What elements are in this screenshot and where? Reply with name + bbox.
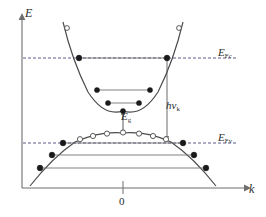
valence-electron-dot xyxy=(203,165,209,171)
axes-group xyxy=(19,13,251,194)
conduction-band-curve xyxy=(63,22,183,112)
conduction-electron-dot xyxy=(147,87,152,92)
conduction-empty-state-dot xyxy=(177,26,182,31)
valence-hole-dots-group xyxy=(77,130,168,142)
conduction-electron-dots-group xyxy=(76,55,170,114)
fermi-conduction-label: EFc xyxy=(218,47,232,58)
valence-hole-dot xyxy=(77,137,82,142)
conduction-electron-dot-fermi-left xyxy=(76,55,82,61)
valence-band-group xyxy=(30,133,216,186)
band-gap-subscript: g xyxy=(128,116,132,123)
valence-electron-dot xyxy=(60,140,66,146)
fermi-conduction-subscript: Fc xyxy=(225,52,232,59)
band-diagram-canvas xyxy=(0,0,266,217)
x-axis-label: k xyxy=(249,183,254,195)
valence-band-curve xyxy=(30,133,216,186)
conduction-electron-dot xyxy=(105,100,110,105)
conduction-electron-dot xyxy=(136,100,141,105)
photon-energy-label: hνk xyxy=(166,100,180,111)
valence-hole-dot xyxy=(136,131,141,136)
conduction-empty-state-dot xyxy=(65,26,70,31)
conduction-empty-states-group xyxy=(65,26,182,31)
valence-electron-dot xyxy=(180,140,186,146)
valence-electron-dots-group xyxy=(37,140,209,171)
valence-electron-dot xyxy=(37,165,43,171)
valence-electron-dot xyxy=(191,152,197,158)
conduction-band-group xyxy=(63,22,183,112)
origin-label: 0 xyxy=(119,196,125,207)
band-gap-label: Eg xyxy=(121,111,131,122)
valence-electron-dot xyxy=(49,152,55,158)
valence-hole-dot xyxy=(120,130,125,135)
valence-hole-dot xyxy=(104,131,109,136)
photon-energy-subscript: k xyxy=(176,105,180,112)
valence-hole-dot xyxy=(163,137,168,142)
fermi-valence-subscript: Fv xyxy=(225,137,233,144)
conduction-electron-dot-fermi-right xyxy=(164,55,170,61)
fermi-valence-label: EFv xyxy=(218,132,232,143)
valence-hole-dot xyxy=(150,133,155,138)
fermi-levels-group xyxy=(23,58,237,143)
valence-hole-dot xyxy=(90,133,95,138)
y-axis-label: E xyxy=(25,7,32,19)
band-diagram-figure: E k 0 EFc EFv Eg hνk xyxy=(0,0,266,217)
conduction-electron-dot xyxy=(94,87,99,92)
